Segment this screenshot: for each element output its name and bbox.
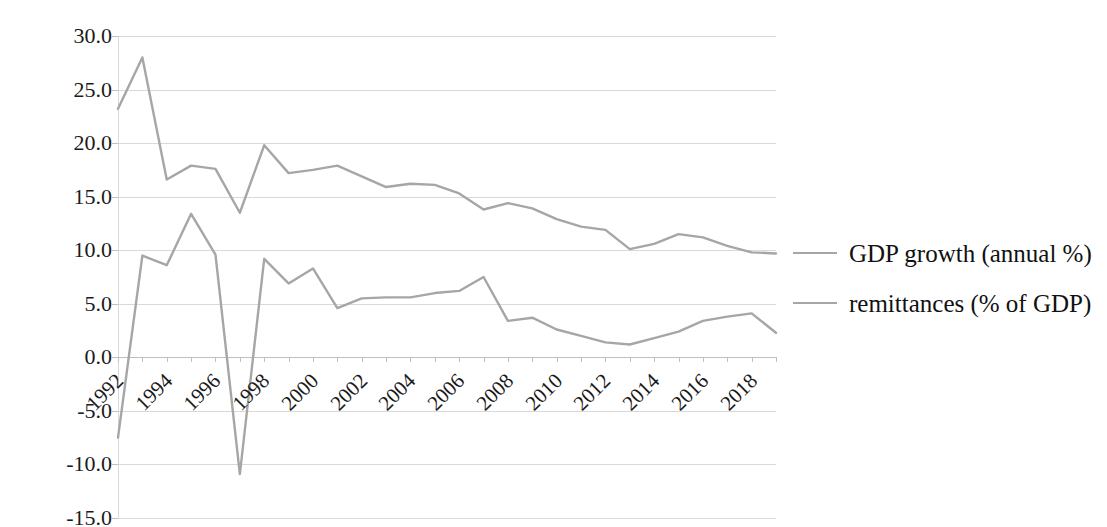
legend-line-swatch-icon bbox=[793, 302, 837, 304]
legend-label: GDP growth (annual %) bbox=[849, 241, 1092, 266]
legend-entry-gdp-growth[interactable]: GDP growth (annual %) bbox=[793, 228, 1103, 278]
legend-label: remittances (% of GDP) bbox=[849, 291, 1091, 316]
legend-entry-remittances[interactable]: remittances (% of GDP) bbox=[793, 278, 1103, 328]
line-chart: 30.025.020.015.010.05.00.0-5.0-10.0-15.0… bbox=[0, 0, 1107, 527]
legend: GDP growth (annual %) remittances (% of … bbox=[793, 228, 1103, 328]
legend-line-swatch-icon bbox=[793, 252, 837, 254]
